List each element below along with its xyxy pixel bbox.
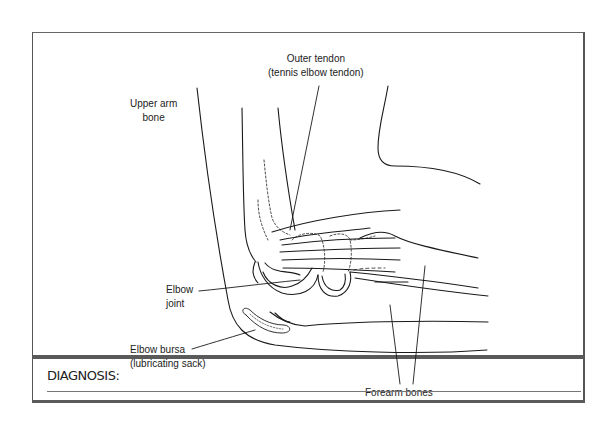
diagnosis-label: DIAGNOSIS: [47, 368, 119, 383]
label-upper-arm-bone: Upper arm bone [130, 97, 177, 125]
label-elbow-bursa: Elbow bursa (lubricating sack) [130, 343, 206, 371]
label-forearm-bones: Forearm bones [365, 386, 433, 400]
label-elbow-joint-line1: Elbow [166, 283, 193, 297]
label-bursa-line2: (lubricating sack) [130, 357, 206, 371]
label-outer-tendon: Outer tendon (tennis elbow tendon) [268, 52, 364, 80]
label-elbow-joint: Elbow joint [166, 283, 193, 311]
label-bursa-line1: Elbow bursa [130, 343, 206, 357]
label-upper-arm-line2: bone [130, 111, 177, 125]
diagnosis-input-line[interactable] [47, 391, 581, 392]
label-elbow-joint-line2: joint [166, 297, 193, 311]
label-outer-tendon-line1: Outer tendon [268, 52, 364, 66]
label-upper-arm-line1: Upper arm [130, 97, 177, 111]
label-forearm-bones-text: Forearm bones [365, 386, 433, 400]
label-outer-tendon-line2: (tennis elbow tendon) [268, 66, 364, 80]
